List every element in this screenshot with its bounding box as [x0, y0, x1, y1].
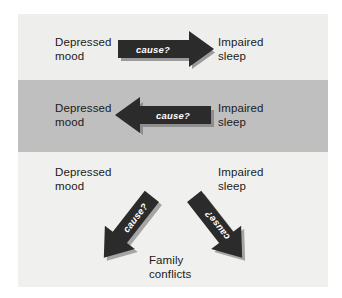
node-label-impaired-sleep-2: Impaired sleep: [218, 102, 264, 129]
figure-panel: Depressed mood Impaired sleep cause? Dep…: [18, 14, 328, 287]
node-label-depressed-mood-2: Depressed mood: [55, 102, 112, 129]
node-label-impaired-sleep-1: Impaired sleep: [218, 36, 264, 63]
node-label-family-conflicts: Family conflicts: [149, 254, 191, 281]
node-label-impaired-sleep-3: Impaired sleep: [218, 166, 264, 193]
node-label-depressed-mood-3: Depressed mood: [55, 166, 112, 193]
node-label-depressed-mood-1: Depressed mood: [55, 36, 112, 63]
